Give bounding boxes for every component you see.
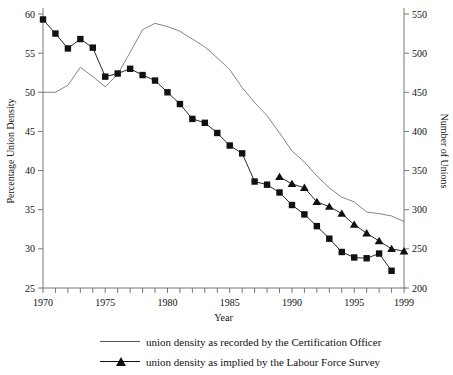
data-point-square [276, 189, 282, 195]
data-point-square [77, 36, 83, 42]
chart-canvas: 1970197519801985199019951999253035404550… [0, 0, 453, 375]
data-point-square [177, 101, 183, 107]
y-tick-label-left: 45 [25, 126, 35, 137]
y-tick-label-right: 400 [412, 126, 427, 137]
data-point-triangle [387, 245, 396, 252]
y-tick-label-right: 350 [412, 165, 427, 176]
data-point-triangle [275, 173, 284, 180]
y-tick-label-right: 500 [412, 48, 427, 59]
data-point-triangle [375, 237, 384, 244]
y-tick-label-right: 550 [412, 9, 427, 20]
data-point-square [164, 89, 170, 95]
x-tick-label: 1990 [282, 297, 302, 308]
legend-marker-line-icon [100, 335, 146, 349]
data-point-triangle [288, 180, 297, 187]
x-tick-label: 1995 [344, 297, 364, 308]
data-point-square [239, 150, 245, 156]
data-point-square [152, 77, 158, 83]
x-tick-label: 1985 [220, 297, 240, 308]
chart-legend: union density as recorded by the Certifi… [100, 332, 450, 372]
legend-item-certification-officer: union density as recorded by the Certifi… [100, 332, 450, 352]
y-tick-label-right: 450 [412, 87, 427, 98]
data-point-square [214, 130, 220, 136]
series-line-1 [43, 19, 392, 270]
legend-marker-line-triangle-icon [100, 355, 146, 369]
data-point-square [388, 268, 394, 274]
y-tick-label-left: 55 [25, 48, 35, 59]
series-line-0 [43, 23, 404, 221]
data-point-square [114, 70, 120, 76]
data-point-square [202, 120, 208, 126]
y-axis-title-left: Percentage Union Density [5, 99, 16, 204]
data-point-square [326, 235, 332, 241]
y-tick-label-left: 30 [25, 243, 35, 254]
data-point-square [40, 16, 46, 22]
data-point-square [289, 202, 295, 208]
data-point-triangle [325, 202, 334, 209]
data-point-square [376, 250, 382, 256]
legend-label-certification-officer: union density as recorded by the Certifi… [146, 336, 381, 348]
data-point-square [90, 44, 96, 50]
x-tick-label: 1999 [394, 297, 414, 308]
y-tick-label-right: 250 [412, 243, 427, 254]
data-point-square [227, 142, 233, 148]
chart-figure: 1970197519801985199019951999253035404550… [0, 0, 453, 375]
y-tick-label-left: 40 [25, 165, 35, 176]
data-point-square [127, 66, 133, 72]
y-tick-label-right: 200 [412, 283, 427, 294]
y-tick-label-left: 25 [25, 283, 35, 294]
y-tick-label-left: 50 [25, 87, 35, 98]
data-point-square [264, 181, 270, 187]
x-tick-label: 1970 [33, 297, 53, 308]
y-tick-label-left: 60 [25, 9, 35, 20]
legend-label-labour-force-survey: union density as implied by the Labour F… [146, 356, 380, 368]
data-point-square [363, 255, 369, 261]
data-point-triangle [337, 209, 346, 216]
data-point-square [102, 73, 108, 79]
x-tick-label: 1975 [95, 297, 115, 308]
y-tick-label-left: 35 [25, 204, 35, 215]
data-point-square [251, 178, 257, 184]
data-point-square [314, 223, 320, 229]
data-point-square [65, 45, 71, 51]
y-tick-label-right: 300 [412, 204, 427, 215]
data-point-square [339, 249, 345, 255]
data-point-square [139, 72, 145, 78]
data-point-square [52, 30, 58, 36]
y-axis-title-right: Number of Unions [439, 114, 450, 189]
data-point-triangle [362, 229, 371, 236]
x-axis-title: Year [214, 312, 233, 323]
data-point-square [189, 116, 195, 122]
data-point-square [351, 254, 357, 260]
legend-item-labour-force-survey: union density as implied by the Labour F… [100, 352, 450, 372]
data-point-square [301, 211, 307, 217]
x-tick-label: 1980 [157, 297, 177, 308]
